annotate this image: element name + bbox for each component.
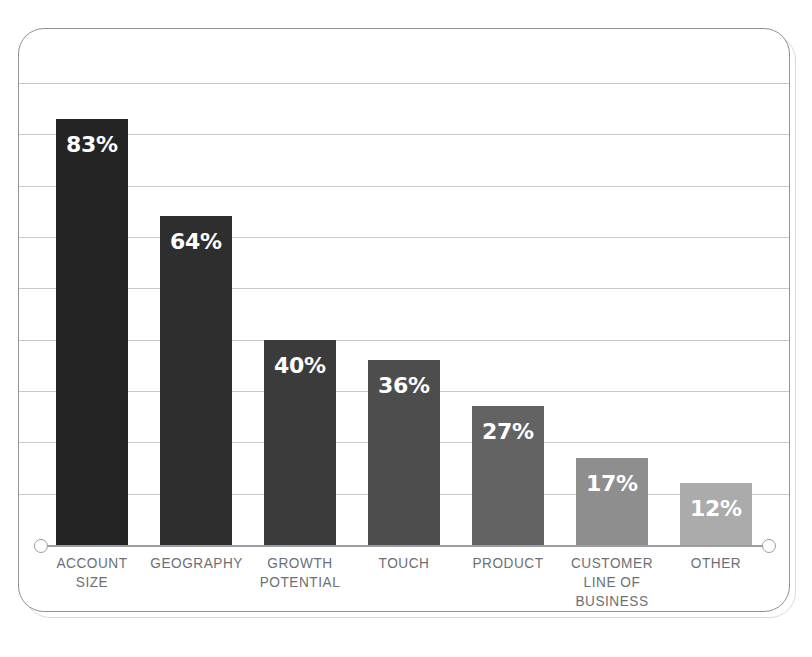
bar[interactable]: 27% xyxy=(472,406,544,545)
bar[interactable]: 17% xyxy=(576,458,648,545)
bar[interactable]: 83% xyxy=(56,119,128,545)
bar-series: 83%64%40%36%27%17%12% xyxy=(18,28,790,612)
category-label: TOUCH xyxy=(358,553,450,572)
category-label: PRODUCT xyxy=(462,553,554,572)
bar-group[interactable]: 17% xyxy=(576,458,648,545)
bar-group[interactable]: 83% xyxy=(56,119,128,545)
bar-value-label: 83% xyxy=(56,132,128,157)
bar-group[interactable]: 40% xyxy=(264,340,336,545)
bar-value-label: 36% xyxy=(368,373,440,398)
bar-group[interactable]: 36% xyxy=(368,360,440,545)
bar[interactable]: 36% xyxy=(368,360,440,545)
category-axis-labels: ACCOUNT SIZEGEOGRAPHYGROWTH POTENTIALTOU… xyxy=(18,553,790,643)
bar-group[interactable]: 27% xyxy=(472,406,544,545)
bar-group[interactable]: 12% xyxy=(680,483,752,545)
bar[interactable]: 12% xyxy=(680,483,752,545)
bar-group[interactable]: 64% xyxy=(160,216,232,545)
bar-value-label: 40% xyxy=(264,353,336,378)
bar[interactable]: 64% xyxy=(160,216,232,545)
bar-chart: 83%64%40%36%27%17%12% ACCOUNT SIZEGEOGRA… xyxy=(18,28,790,612)
category-label: GROWTH POTENTIAL xyxy=(254,553,346,591)
bar-value-label: 17% xyxy=(576,471,648,496)
axis-baseline xyxy=(40,545,768,547)
category-label: GEOGRAPHY xyxy=(150,553,242,572)
bar-value-label: 27% xyxy=(472,419,544,444)
category-label: CUSTOMER LINE OF BUSINESS xyxy=(566,553,658,610)
axis-cap-right-icon xyxy=(762,539,776,553)
category-label: OTHER xyxy=(670,553,762,572)
bar-value-label: 12% xyxy=(680,496,752,521)
bar-value-label: 64% xyxy=(160,229,232,254)
axis-cap-left-icon xyxy=(34,539,48,553)
bar[interactable]: 40% xyxy=(264,340,336,545)
category-label: ACCOUNT SIZE xyxy=(46,553,138,591)
